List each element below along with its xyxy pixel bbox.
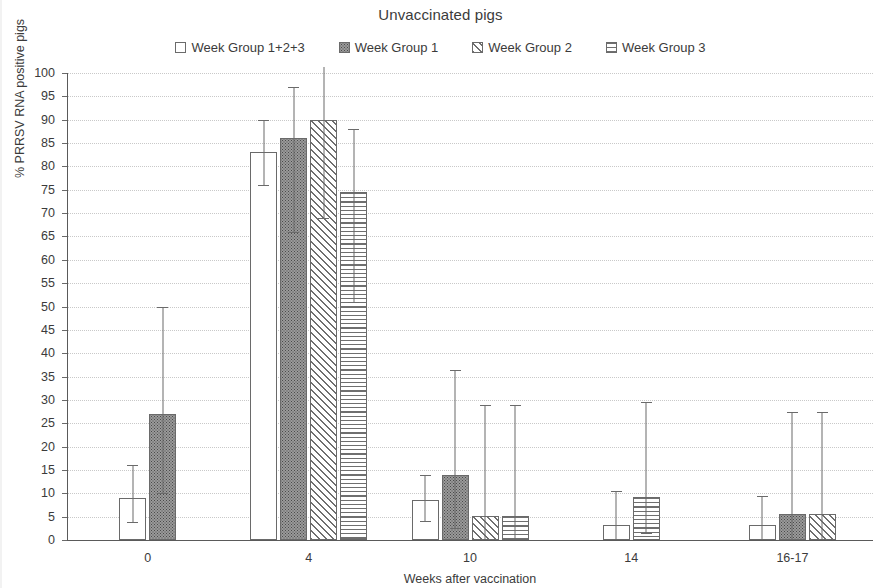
y-axis-tick <box>62 73 67 74</box>
error-bar-cap-lower <box>318 218 329 219</box>
y-axis-tick <box>62 423 67 424</box>
y-axis-tick-label: 75 <box>15 183 55 197</box>
error-bar-cap-upper <box>288 87 299 88</box>
error-bar-cap-lower <box>348 302 359 303</box>
error-bar <box>425 475 426 522</box>
error-bar-cap-upper <box>258 120 269 121</box>
legend-label: Week Group 3 <box>622 40 706 55</box>
x-axis-baseline <box>67 540 873 541</box>
error-bar <box>792 412 793 540</box>
bar-group <box>228 73 389 540</box>
bar-slot <box>412 73 439 540</box>
error-bar-cap-upper <box>348 129 359 130</box>
x-axis-tick-label: 4 <box>228 551 389 565</box>
bar-group <box>67 73 228 540</box>
x-axis-tick-label: 16-17 <box>712 551 873 565</box>
bar-slot <box>502 73 529 540</box>
bar-group-bars <box>712 73 873 540</box>
legend-swatch-horizontal-icon <box>606 42 617 53</box>
error-bar <box>822 412 823 540</box>
y-axis-tick <box>62 353 67 354</box>
y-axis-tick-label: 10 <box>15 486 55 500</box>
y-axis-tick <box>62 377 67 378</box>
bar-slot <box>603 73 630 540</box>
legend-label: Week Group 1+2+3 <box>191 40 304 55</box>
y-axis-tick <box>62 307 67 308</box>
error-bar <box>455 370 456 529</box>
y-axis-tick-label: 30 <box>15 393 55 407</box>
error-bar-cap-upper <box>127 465 138 466</box>
y-axis-tick <box>62 236 67 237</box>
x-axis-tick-labels: 04101416-17 <box>67 551 873 565</box>
y-axis-tick-label: 80 <box>15 159 55 173</box>
y-axis-tick <box>62 96 67 97</box>
y-axis-tick-label: 55 <box>15 276 55 290</box>
legend-item[interactable]: Week Group 3 <box>606 40 706 55</box>
error-bar-cap-lower <box>641 533 652 534</box>
page-edge-artifact <box>0 0 2 588</box>
bar-slot <box>442 73 469 540</box>
error-bar-cap-lower <box>450 528 461 529</box>
legend-item[interactable]: Week Group 1+2+3 <box>175 40 304 55</box>
bar-slot <box>119 73 146 540</box>
y-axis-tick <box>62 400 67 401</box>
y-axis-tick-label: 20 <box>15 440 55 454</box>
y-axis-tick-label: 90 <box>15 113 55 127</box>
y-axis-tick <box>62 540 67 541</box>
bar-groups <box>67 73 873 540</box>
y-axis-tick-label: 65 <box>15 229 55 243</box>
error-bar-cap-upper <box>420 475 431 476</box>
legend-item[interactable]: Week Group 1 <box>339 40 439 55</box>
x-axis-title: Weeks after vaccination <box>67 572 873 586</box>
error-bar-cap-upper <box>641 402 652 403</box>
y-axis-tick <box>62 470 67 471</box>
error-bar-cap-upper <box>787 412 798 413</box>
bar-slot <box>749 73 776 540</box>
bar-slot <box>779 73 806 540</box>
bar-group-bars <box>389 73 550 540</box>
y-axis-tick-label: 5 <box>15 510 55 524</box>
error-bar-cap-upper <box>157 307 168 308</box>
legend-swatch-dots-icon <box>339 42 350 53</box>
error-bar-cap-lower <box>127 522 138 523</box>
bar-slot <box>809 73 836 540</box>
error-bar <box>485 405 486 540</box>
error-bar-cap-upper <box>480 405 491 406</box>
y-axis-tick-label: 40 <box>15 346 55 360</box>
y-axis-tick-label: 35 <box>15 370 55 384</box>
y-axis-tick-label: 70 <box>15 206 55 220</box>
error-bar-cap-upper <box>757 496 768 497</box>
legend-item[interactable]: Week Group 2 <box>472 40 572 55</box>
error-bar-cap-lower <box>258 185 269 186</box>
error-bar <box>353 129 354 302</box>
y-axis-tick <box>62 447 67 448</box>
legend-swatch-none-icon <box>175 42 186 53</box>
y-axis-tick-label: 50 <box>15 300 55 314</box>
x-axis-tick-label: 10 <box>389 551 550 565</box>
error-bar <box>132 465 133 522</box>
x-axis-tick-label: 0 <box>67 551 228 565</box>
error-bar <box>162 307 163 494</box>
y-axis-tick <box>62 143 67 144</box>
y-axis-tick <box>62 190 67 191</box>
error-bar <box>762 496 763 540</box>
bar-slot <box>250 73 277 540</box>
y-axis-tick-label: 45 <box>15 323 55 337</box>
x-axis-tick-label: 14 <box>551 551 712 565</box>
chart-title: Unvaccinated pigs <box>0 6 881 23</box>
bar-slot <box>633 73 660 540</box>
plot-area: 1009590858075706560555045403530252015105… <box>67 73 873 540</box>
error-bar-cap-upper <box>817 412 828 413</box>
y-axis-tick <box>62 260 67 261</box>
y-axis-tick-label: 25 <box>15 416 55 430</box>
error-bar <box>646 402 647 533</box>
error-bar <box>293 87 294 232</box>
legend-swatch-diagonal-icon <box>472 42 483 53</box>
bar-slot <box>149 73 176 540</box>
bar-group-bars <box>67 73 228 540</box>
y-axis-tick <box>62 493 67 494</box>
y-axis-tick-label: 60 <box>15 253 55 267</box>
bar[interactable] <box>250 152 277 540</box>
bar-slot <box>280 73 307 540</box>
y-axis-tick-label: 0 <box>15 533 55 547</box>
